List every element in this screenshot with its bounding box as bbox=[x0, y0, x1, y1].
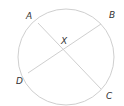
label-a: A bbox=[26, 12, 32, 21]
label-c: C bbox=[106, 92, 112, 101]
label-d: D bbox=[16, 77, 23, 86]
circle bbox=[18, 9, 114, 105]
label-x: X bbox=[61, 37, 67, 46]
chord-ac bbox=[38, 23, 101, 89]
circle-chords-diagram: A B X D C bbox=[0, 0, 124, 106]
chord-bd bbox=[28, 24, 101, 73]
label-b: B bbox=[109, 11, 115, 20]
